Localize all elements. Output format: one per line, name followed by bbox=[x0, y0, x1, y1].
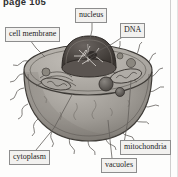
label-vacuoles: vacuoles bbox=[101, 158, 137, 173]
label-mitochondria: mitochondria bbox=[120, 140, 171, 155]
vacuole bbox=[42, 68, 50, 76]
label-cytoplasm: cytoplasm bbox=[9, 150, 50, 165]
vacuole bbox=[127, 59, 136, 68]
vacuole bbox=[116, 88, 125, 97]
label-dna: DNA bbox=[120, 23, 145, 38]
label-cell-membrane: cell membrane bbox=[5, 27, 60, 42]
textbook-page: page 105 bbox=[0, 0, 178, 177]
vacuole bbox=[117, 53, 123, 59]
vacuole bbox=[99, 77, 113, 91]
label-nucleus: nucleus bbox=[75, 8, 107, 23]
